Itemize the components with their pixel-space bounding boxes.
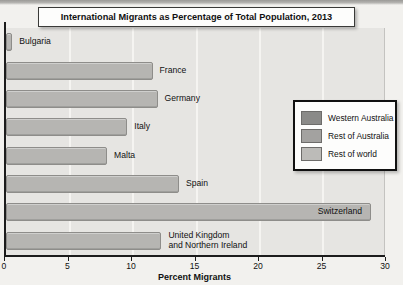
tick-label-10: 10 — [126, 261, 136, 271]
legend-box: Western AustraliaRest of AustraliaRest o… — [293, 100, 397, 171]
tick-label-0: 0 — [2, 261, 7, 271]
bar-spain — [6, 175, 179, 193]
tick-label-15: 15 — [190, 261, 200, 271]
legend-item: Rest of Australia — [301, 129, 389, 143]
legend-item: Rest of world — [301, 147, 389, 161]
bar-label: United Kingdom and Northern Ireland — [168, 231, 247, 251]
bar-label: Malta — [114, 151, 135, 161]
legend-label: Rest of world — [328, 149, 377, 159]
bar-germany — [6, 90, 158, 108]
bar-switzerland: Switzerland — [6, 203, 371, 221]
tick-label-25: 25 — [317, 261, 327, 271]
chart-title: International Migrants as Percentage of … — [38, 7, 355, 27]
bar-label: France — [160, 66, 187, 76]
bar-italy — [6, 118, 127, 136]
bar-label: Bulgaria — [19, 37, 51, 47]
bar-row: Spain — [6, 170, 385, 198]
tick-label-20: 20 — [253, 261, 263, 271]
bar-france — [6, 62, 153, 80]
bar-label: Spain — [186, 179, 208, 189]
scan-top-edge — [0, 0, 403, 5]
legend-swatch — [301, 111, 322, 125]
bar-row: France — [6, 56, 385, 84]
legend-item: Western Australia — [301, 111, 389, 125]
legend-label: Rest of Australia — [328, 131, 389, 141]
x-axis-title: Percent Migrants — [4, 272, 385, 282]
bar-label: Italy — [134, 122, 150, 132]
bar-label: Switzerland — [318, 208, 362, 218]
bar-row: Switzerland — [6, 198, 385, 226]
legend-label: Western Australia — [328, 113, 393, 123]
bar-label: Germany — [165, 94, 200, 104]
bar-row: Bulgaria — [6, 28, 385, 56]
tick-label-30: 30 — [380, 261, 390, 271]
bar-united-kingdom — [6, 232, 161, 250]
tick-label-5: 5 — [65, 261, 70, 271]
bar-malta — [6, 147, 107, 165]
legend-swatch — [301, 129, 322, 143]
bar-bulgaria — [6, 33, 12, 51]
bar-row: United Kingdom and Northern Ireland — [6, 227, 385, 255]
legend-swatch — [301, 147, 322, 161]
